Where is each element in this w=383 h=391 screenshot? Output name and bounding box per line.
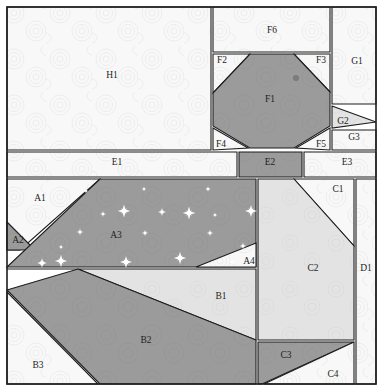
section-label-d1: D1	[360, 263, 372, 273]
section-label-g1: G1	[351, 56, 363, 66]
section-label-a4: A4	[243, 256, 255, 266]
section-label-f2: F2	[217, 55, 227, 65]
section-label-c2: C2	[307, 263, 318, 273]
section-label-c3: C3	[280, 350, 291, 360]
section-label-f6: F6	[267, 25, 277, 35]
eye-dot-icon	[293, 75, 299, 81]
section-label-f1: F1	[265, 94, 275, 104]
section-label-h1: H1	[106, 70, 118, 80]
section-label-f4: F4	[216, 139, 226, 149]
section-label-b2: B2	[140, 335, 151, 345]
section-label-a3: A3	[110, 230, 122, 240]
pattern-section-e3	[304, 152, 376, 177]
section-label-g3: G3	[348, 132, 360, 142]
section-label-c1: C1	[332, 184, 343, 194]
pattern-canvas: H1F6G1F2F3F1G2G3F4F5E1E2E3A1A2A3A4B1B2B3…	[0, 0, 383, 391]
section-label-a1: A1	[34, 193, 46, 203]
pattern-section-d1	[356, 179, 376, 384]
section-label-f5: F5	[316, 139, 326, 149]
section-label-a2: A2	[12, 235, 24, 245]
section-label-e1: E1	[112, 157, 123, 167]
section-label-e2: E2	[265, 157, 276, 167]
section-label-f3: F3	[316, 55, 326, 65]
section-label-g2: G2	[337, 116, 349, 126]
pattern-diagram: H1F6G1F2F3F1G2G3F4F5E1E2E3A1A2A3A4B1B2B3…	[0, 0, 383, 391]
section-label-b3: B3	[32, 360, 43, 370]
section-label-c4: C4	[327, 369, 338, 379]
section-label-e3: E3	[342, 157, 353, 167]
section-label-b1: B1	[215, 291, 226, 301]
